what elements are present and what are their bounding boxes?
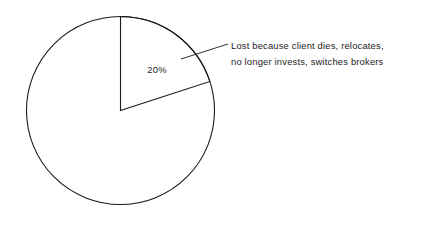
pie-chart-canvas	[0, 0, 423, 230]
annotation-text-line-1: Lost because client dies, relocates,	[231, 38, 421, 54]
annotation-text-block: Lost because client dies, relocates, no …	[231, 38, 421, 69]
annotation-leader-line	[181, 44, 228, 59]
pie-chart-figure: 20% Lost because client dies, relocates,…	[0, 0, 423, 230]
annotation-text-line-2: no longer invests, switches brokers	[231, 54, 421, 70]
slice-percentage-label: 20%	[138, 64, 176, 76]
